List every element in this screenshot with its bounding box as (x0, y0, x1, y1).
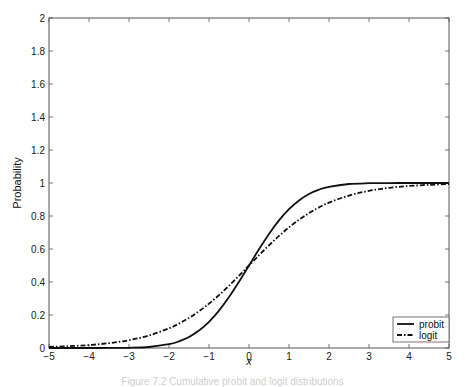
x-tick-label: 3 (366, 351, 372, 362)
y-tick-label: 1.6 (31, 79, 45, 90)
x-tick-label: −3 (123, 351, 135, 362)
y-tick-label: 1.8 (31, 46, 45, 57)
x-axis: −5−4−3−2−1012345 (43, 18, 452, 362)
y-tick-label: 1 (39, 178, 45, 189)
y-tick-label: 0.6 (31, 244, 45, 255)
x-tick-label: 5 (446, 351, 452, 362)
y-tick-label: 2 (39, 13, 45, 24)
y-axis-label: Probability (11, 157, 23, 209)
x-tick-label: 1 (286, 351, 292, 362)
y-tick-label: 0.8 (31, 211, 45, 222)
legend: probit logit (393, 317, 449, 342)
series-logit (49, 184, 449, 347)
x-axis-label: x (245, 355, 252, 367)
y-tick-label: 1.4 (31, 112, 45, 123)
x-tick-label: −2 (163, 351, 175, 362)
x-tick-label: −4 (83, 351, 95, 362)
y-tick-label: 1.2 (31, 145, 45, 156)
x-tick-label: 2 (326, 351, 332, 362)
x-tick-label: −5 (43, 351, 55, 362)
x-tick-label: 4 (406, 351, 412, 362)
series-lines (49, 183, 449, 348)
y-tick-label: 0.4 (31, 277, 45, 288)
y-tick-label: 0.2 (31, 310, 45, 321)
figure-caption: Figure 7.2 Cumulative probit and logit d… (0, 376, 465, 387)
legend-item-probit: probit (419, 319, 444, 330)
x-tick-label: −1 (203, 351, 215, 362)
legend-item-logit: logit (419, 330, 438, 341)
y-tick-label: 0 (39, 343, 45, 354)
